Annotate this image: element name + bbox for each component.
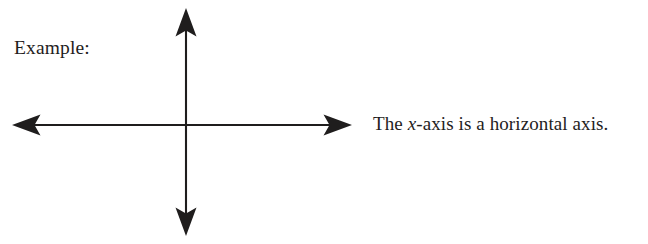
x-axis-caption: The x-axis is a horizontal axis. xyxy=(373,114,608,133)
diagram-page: Example: The x-axis is a horizontal axis… xyxy=(0,0,648,244)
caption-prefix: The xyxy=(373,113,408,134)
caption-variable: x xyxy=(408,113,417,134)
caption-suffix: -axis is a horizontal axis. xyxy=(416,113,608,134)
